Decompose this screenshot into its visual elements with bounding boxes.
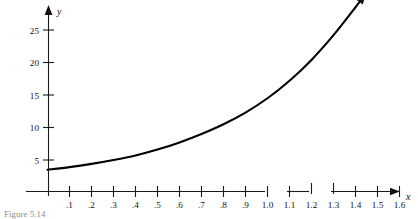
x-tick-label-0-9: .9 <box>242 200 249 210</box>
x-tick-label-1-1: 1.1 <box>284 200 296 210</box>
x-axis-title: x <box>405 191 411 202</box>
y-axis-ticks: 25 20 15 10 5 <box>30 26 54 166</box>
x-tick-label-1-5: 1.5 <box>372 200 384 210</box>
figure-caption: Figure 5.14 <box>4 209 124 219</box>
x-tick-label-1-4: 1.4 <box>350 200 362 210</box>
y-tick-label-25: 25 <box>30 26 40 36</box>
x-axis-arrow-icon <box>390 188 400 196</box>
x-axis-ticks: .1 .2 .3 .4 .5 .6 .7 .8 .9 1.0 1.1 1.2 <box>66 183 406 210</box>
x-tick-label-0-7: .7 <box>198 200 205 210</box>
y-tick-label-20: 20 <box>30 58 40 68</box>
figure-container: y x 25 20 15 10 5 .1 .2 .3 <box>0 0 418 219</box>
x-tick-label-1-6: 1.6 <box>394 200 406 210</box>
x-tick-label-0-6: .6 <box>176 200 183 210</box>
x-tick-label-1-3: 1.3 <box>328 200 340 210</box>
y-tick-label-5: 5 <box>34 156 39 166</box>
y-tick-label-15: 15 <box>30 91 40 101</box>
x-tick-label-0-5: .5 <box>154 200 161 210</box>
x-tick-label-0-4: .4 <box>132 200 139 210</box>
chart-plot: y x 25 20 15 10 5 .1 .2 .3 <box>0 0 418 219</box>
y-tick-label-10: 10 <box>30 123 40 133</box>
exponential-growth-curve <box>48 0 367 170</box>
x-tick-label-1-0: 1.0 <box>262 200 274 210</box>
y-axis-arrow-icon <box>45 5 53 15</box>
x-tick-label-1-2: 1.2 <box>306 200 318 210</box>
x-tick-label-0-8: .8 <box>220 200 227 210</box>
y-axis-title: y <box>56 6 62 17</box>
